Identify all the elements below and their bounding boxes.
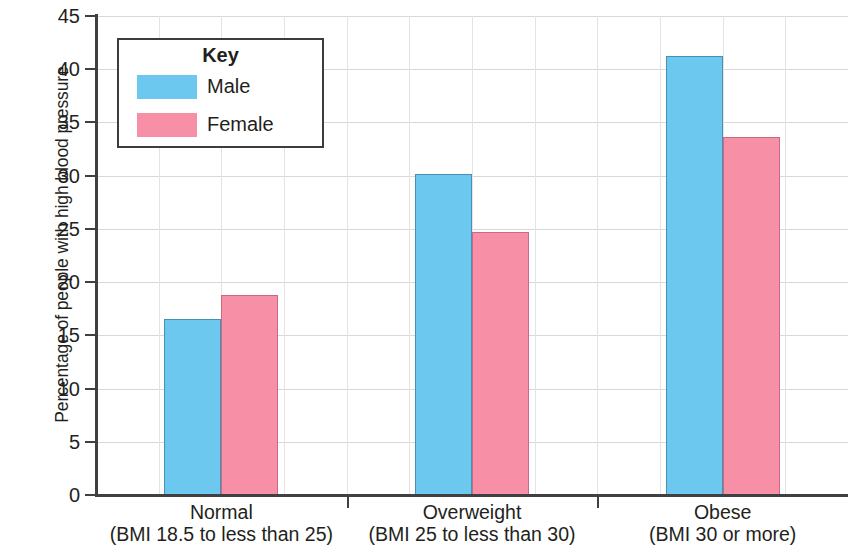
gridline-vertical — [660, 16, 661, 495]
x-axis-category-overweight: Overweight(BMI 25 to less than 30) — [347, 502, 598, 546]
bar-normal-female — [221, 295, 278, 495]
y-axis-tick — [85, 228, 96, 230]
y-axis-tick — [85, 15, 96, 17]
x-axis-category-normal: Normal(BMI 18.5 to less than 25) — [96, 502, 347, 546]
y-axis-tick-label: 40 — [0, 58, 80, 81]
y-axis-tick-label: 5 — [0, 430, 80, 453]
y-axis-tick — [85, 388, 96, 390]
gridline-vertical — [347, 16, 348, 495]
y-axis-tick — [85, 175, 96, 177]
y-axis-tick — [85, 121, 96, 123]
legend-entry-female: Female — [119, 110, 322, 140]
gridline-vertical — [597, 16, 598, 495]
y-axis-tick — [85, 494, 96, 496]
legend-entry-male: Male — [119, 72, 322, 102]
bar-obese-female — [723, 137, 780, 495]
x-axis-line — [95, 494, 848, 497]
y-axis-tick-label: 45 — [0, 5, 80, 28]
bar-obese-male — [666, 56, 723, 495]
category-sublabel: (BMI 18.5 to less than 25) — [96, 524, 347, 546]
y-axis-tick — [85, 334, 96, 336]
y-axis-line — [95, 14, 98, 497]
category-sublabel: (BMI 25 to less than 30) — [347, 524, 598, 546]
gridline-vertical — [535, 16, 536, 495]
y-axis-tick-label: 25 — [0, 217, 80, 240]
category-name: Obese — [597, 502, 848, 524]
legend-swatch-male — [137, 75, 197, 99]
legend-label-female: Female — [207, 110, 274, 138]
legend-label-male: Male — [207, 72, 250, 100]
legend-title: Key — [119, 44, 322, 67]
bar-chart: Percentage of people with high blood pre… — [0, 0, 849, 552]
y-axis-tick — [85, 281, 96, 283]
legend-swatch-female — [137, 113, 197, 137]
y-axis-tick-label: 10 — [0, 377, 80, 400]
gridline-vertical — [409, 16, 410, 495]
y-axis-title: Percentage of people with high blood pre… — [52, 15, 73, 475]
y-axis-tick-label: 0 — [0, 484, 80, 507]
category-sublabel: (BMI 30 or more) — [597, 524, 848, 546]
category-name: Normal — [96, 502, 347, 524]
gridline-vertical — [785, 16, 786, 495]
y-axis-tick-label: 15 — [0, 324, 80, 347]
y-axis-tick-label: 30 — [0, 164, 80, 187]
x-axis-category-obese: Obese(BMI 30 or more) — [597, 502, 848, 546]
bar-normal-male — [164, 319, 221, 495]
y-axis-tick — [85, 68, 96, 70]
legend-key-box: Key MaleFemale — [117, 38, 324, 148]
y-axis-tick-label: 35 — [0, 111, 80, 134]
bar-overweight-female — [472, 232, 529, 495]
y-axis-tick — [85, 441, 96, 443]
category-name: Overweight — [347, 502, 598, 524]
bar-overweight-male — [415, 174, 472, 495]
y-axis-tick-label: 20 — [0, 271, 80, 294]
